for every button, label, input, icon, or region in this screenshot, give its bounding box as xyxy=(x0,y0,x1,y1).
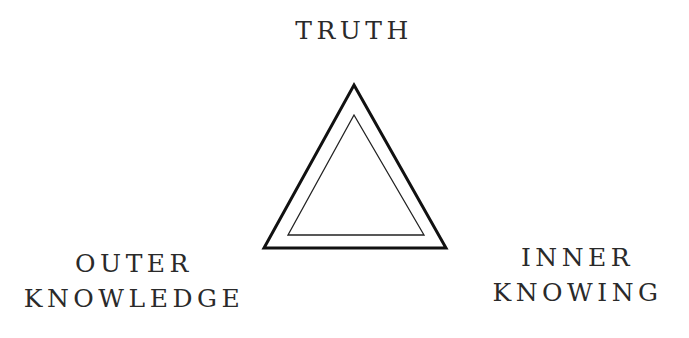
label-outer-knowledge-line-1: OUTER xyxy=(0,246,268,281)
label-inner-knowing-line-1: INNER xyxy=(466,240,689,275)
label-truth-line-1: TRUTH xyxy=(254,13,454,48)
label-inner-knowing: INNER KNOWING xyxy=(466,240,689,310)
label-outer-knowledge: OUTER KNOWLEDGE xyxy=(0,246,268,316)
label-outer-knowledge-line-2: KNOWLEDGE xyxy=(0,281,268,316)
outer-triangle xyxy=(264,85,446,248)
label-inner-knowing-line-2: KNOWING xyxy=(466,275,689,310)
label-truth: TRUTH xyxy=(254,13,454,48)
